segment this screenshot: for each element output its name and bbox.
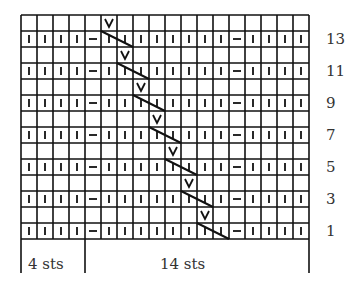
row-label-5: 5 <box>326 158 336 176</box>
row-label-11: 11 <box>326 62 345 80</box>
row-label-9: 9 <box>326 94 336 112</box>
edge-stitch-count: 4 sts <box>28 255 64 273</box>
row-label-13: 13 <box>326 30 345 48</box>
knitting-chart <box>0 0 356 286</box>
row-label-7: 7 <box>326 126 336 144</box>
repeat-stitch-count: 14 sts <box>160 255 205 273</box>
row-label-1: 1 <box>326 222 336 240</box>
row-label-3: 3 <box>326 190 336 208</box>
